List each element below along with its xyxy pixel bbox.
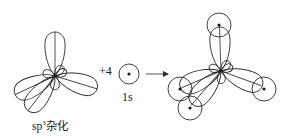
overlapped-orbitals	[168, 13, 276, 120]
s-orbital-top	[207, 13, 231, 37]
1s-label: 1s	[122, 90, 133, 105]
plus-four-label: +4	[99, 64, 112, 79]
sp3-hybrid-label: sp3杂化	[32, 117, 68, 133]
s-orbital-right	[252, 77, 276, 101]
sp3-prefix: sp	[32, 120, 42, 132]
sp3-hybrid-orbitals	[11, 32, 100, 117]
s-orbital-icon	[119, 64, 139, 84]
s-orbital-left	[168, 77, 192, 101]
hybridization-diagram: +4 1s sp3杂化	[0, 0, 290, 139]
sp3-suffix: 杂化	[46, 120, 68, 132]
right-arrow-icon	[146, 71, 169, 77]
s-orbital-bottom-left	[178, 96, 202, 120]
